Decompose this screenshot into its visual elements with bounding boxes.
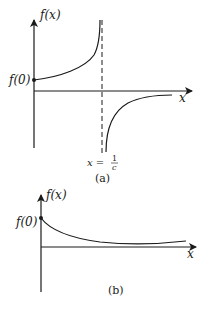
intercept-label-b: f(0) bbox=[15, 215, 38, 229]
curve-left-branch bbox=[34, 20, 100, 80]
diagram-b: f(x) f(0) x (b) bbox=[15, 188, 196, 297]
asymptote-label-denominator: c bbox=[112, 163, 117, 172]
caption-a: (a) bbox=[95, 172, 110, 185]
asymptote-label: x = bbox=[87, 157, 104, 168]
x-axis-label-b: x bbox=[187, 247, 194, 261]
figure: f(x) f(0) x x = 1 c (a) f(x) f(0) x (b) bbox=[0, 0, 209, 312]
y-axis-label-b: f(x) bbox=[45, 188, 67, 202]
decay-curve bbox=[41, 218, 186, 244]
intercept-label-a: f(0) bbox=[8, 73, 31, 87]
x-axis-label-a: x bbox=[179, 91, 186, 105]
intercept-point-a bbox=[32, 78, 36, 82]
caption-b: (b) bbox=[108, 284, 124, 297]
diagram-a: f(x) f(0) x x = 1 c (a) bbox=[8, 8, 192, 185]
curve-right-branch bbox=[106, 95, 172, 152]
asymptote-label-numerator: 1 bbox=[112, 154, 117, 163]
intercept-point-b bbox=[39, 216, 43, 220]
y-axis-label-a: f(x) bbox=[39, 8, 61, 22]
